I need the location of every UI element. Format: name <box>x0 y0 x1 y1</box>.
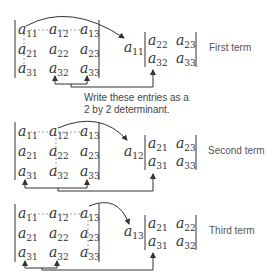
svg-text:a11: a11 <box>18 205 38 223</box>
svg-text:a23: a23 <box>176 32 196 50</box>
svg-text:a21: a21 <box>148 135 168 153</box>
svg-text:a33: a33 <box>176 153 196 171</box>
multiplier: a11 <box>124 39 144 57</box>
svg-text:a13: a13 <box>80 205 100 223</box>
minor-entries: a22 a23 a32 a33 <box>148 32 196 68</box>
svg-text:a21: a21 <box>18 143 38 161</box>
matrix-entries: a11 a12 a13 a21 a22 a23 a31 a32 a33 <box>18 205 100 262</box>
svg-text:a22: a22 <box>49 143 69 161</box>
cofactor-expansion-diagram: a11 a12 a13 a21 a22 a23 a31 a32 a33 a11 … <box>0 0 272 272</box>
svg-text:a32: a32 <box>49 60 69 78</box>
term-label: First term <box>209 42 251 53</box>
svg-text:a33: a33 <box>80 244 100 262</box>
minor-entries: a21 a23 a31 a33 <box>148 135 196 171</box>
svg-text:a31: a31 <box>18 163 38 181</box>
svg-text:a33: a33 <box>80 163 100 181</box>
svg-text:a21: a21 <box>18 225 38 243</box>
svg-text:a22: a22 <box>49 225 69 243</box>
svg-text:a12: a12 <box>49 205 69 223</box>
curved-arrow-to-multiplier <box>26 16 124 38</box>
svg-text:a21: a21 <box>18 41 38 59</box>
svg-text:a12: a12 <box>49 21 69 39</box>
note-line-1: Write these entries as a <box>84 92 189 103</box>
entries-connector <box>55 70 153 87</box>
svg-text:a11: a11 <box>18 21 38 39</box>
matrix-entries: a11 a12 a13 a21 a22 a23 a31 a32 a33 <box>18 123 100 181</box>
svg-text:a32: a32 <box>49 163 69 181</box>
svg-text:a31: a31 <box>18 244 38 262</box>
svg-text:a31: a31 <box>148 233 168 251</box>
svg-text:a23: a23 <box>176 135 196 153</box>
svg-text:a22: a22 <box>148 32 168 50</box>
svg-text:a32: a32 <box>176 233 196 251</box>
svg-text:a33: a33 <box>176 50 196 68</box>
minor-entries: a21 a22 a31 a32 <box>148 215 196 251</box>
svg-text:a13: a13 <box>80 123 100 141</box>
second-term-section: a11 a12 a13 a21 a22 a23 a31 a32 a33 a12 … <box>15 121 265 191</box>
svg-text:a32: a32 <box>148 50 168 68</box>
third-term-section: a11 a12 a13 a21 a22 a23 a31 a32 a33 a13 … <box>15 203 255 270</box>
instruction-note: Write these entries as a 2 by 2 determin… <box>84 92 189 115</box>
svg-text:a31: a31 <box>18 60 38 78</box>
svg-text:a21: a21 <box>148 215 168 233</box>
svg-text:a11: a11 <box>18 123 38 141</box>
svg-text:a23: a23 <box>80 41 100 59</box>
svg-text:a12: a12 <box>49 123 69 141</box>
term-label: Third term <box>209 225 255 236</box>
term-label: Second term <box>208 145 265 156</box>
svg-text:a22: a22 <box>49 41 69 59</box>
matrix-entries: a11 a12 a13 a21 a22 a23 a31 a32 a33 <box>18 21 100 78</box>
note-line-2: 2 by 2 determinant. <box>84 104 170 115</box>
svg-text:a32: a32 <box>49 244 69 262</box>
svg-text:a23: a23 <box>80 225 100 243</box>
first-term-section: a11 a12 a13 a21 a22 a23 a31 a32 a33 a11 … <box>15 16 251 87</box>
svg-text:a33: a33 <box>80 60 100 78</box>
multiplier: a12 <box>124 143 144 161</box>
svg-text:a31: a31 <box>148 153 168 171</box>
svg-text:a23: a23 <box>80 143 100 161</box>
multiplier: a13 <box>124 223 144 241</box>
svg-text:a22: a22 <box>176 215 196 233</box>
